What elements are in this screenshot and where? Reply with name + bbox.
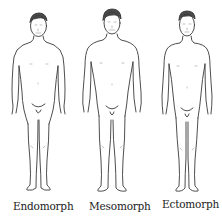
ectomorph-figure xyxy=(148,0,222,198)
mesomorph-label: Mesomorph xyxy=(89,200,151,212)
ectomorph-body-icon xyxy=(148,0,222,198)
endomorph-body-icon xyxy=(0,0,75,198)
mesomorph-figure xyxy=(72,0,150,198)
endomorph-label: Endomorph xyxy=(13,200,73,212)
endomorph-figure xyxy=(0,0,75,198)
ectomorph-label: Ectomorph xyxy=(162,198,219,210)
mesomorph-body-icon xyxy=(72,0,150,198)
